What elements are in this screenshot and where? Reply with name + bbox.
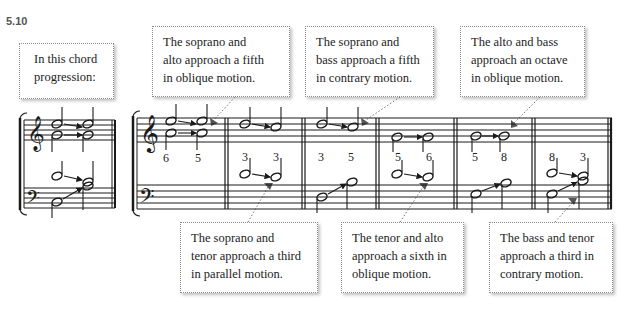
intro-notes [51, 107, 94, 218]
interval-label: 8 [501, 150, 507, 164]
leader-arrowheads [210, 118, 577, 205]
treble-clef-icon: 𝄞 [140, 114, 159, 153]
music-notation: 𝄞 𝄢 [0, 0, 629, 310]
main-system [133, 111, 612, 216]
interval-label: 5 [472, 150, 478, 164]
interval-label: 5 [348, 150, 354, 164]
interval-labels: 6 5 3 3 3 5 5 6 5 8 8 3 [163, 150, 586, 165]
interval-label: 3 [318, 150, 324, 164]
measure-1-notes [165, 104, 208, 150]
interval-label: 5 [195, 151, 201, 165]
bass-clef-icon: 𝄢 [26, 187, 40, 212]
measure-5-notes [470, 131, 512, 213]
treble-clef-icon: 𝄞 [27, 115, 45, 152]
interval-label: 3 [273, 150, 279, 164]
interval-label: 8 [549, 150, 555, 164]
interval-label: 6 [163, 151, 169, 165]
interval-label: 6 [426, 150, 432, 164]
bass-clef-icon: 𝄢 [139, 185, 154, 213]
interval-label: 3 [242, 150, 248, 164]
interval-label: 5 [395, 150, 401, 164]
interval-label: 3 [580, 150, 586, 164]
